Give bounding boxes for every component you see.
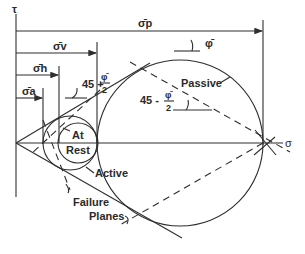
failure-label-line1: Failure: [73, 196, 109, 208]
passive-angle: 45 - φ̄ 2: [140, 90, 212, 113]
passive-angle-two: 2: [166, 103, 171, 113]
sigma-v-label: σ̄v: [53, 40, 68, 52]
sigma-p-label: σ̄p: [138, 17, 153, 29]
passive-label: Passive: [181, 77, 230, 89]
failure-label-line2: Planes: [89, 210, 124, 222]
tau-axis: τ: [12, 3, 17, 197]
sigma-h-dimension: σ̄h: [16, 62, 59, 143]
sigma-a-label: σ̄a: [22, 85, 37, 97]
active-angle: 45 + φ̄ 2: [65, 72, 110, 98]
active-label-text: Active: [95, 167, 128, 179]
at-rest-line1: At: [72, 129, 84, 141]
phi-angle: φ̄: [174, 37, 215, 51]
phi-label: φ̄: [205, 37, 215, 49]
tau-axis-label: τ: [12, 3, 17, 15]
at-rest-line2: Rest: [66, 144, 90, 156]
passive-angle-prefix: 45 -: [140, 94, 159, 106]
active-angle-two: 2: [102, 85, 107, 95]
passive-angle-phi: φ̄: [165, 90, 173, 100]
active-label: Active: [86, 167, 128, 179]
sigma-p-dimension: σ̄p: [16, 17, 263, 145]
active-angle-phi: φ̄: [101, 72, 109, 82]
at-rest-label: At Rest: [63, 128, 90, 156]
mohr-circle-diagram: τ σ σ̄p σ̄v σ̄h σ̄a: [0, 0, 305, 254]
sigma-axis-label: σ: [285, 137, 292, 149]
sigma-axis: σ: [16, 137, 292, 149]
passive-label-text: Passive: [181, 77, 222, 89]
sigma-h-label: σ̄h: [33, 62, 48, 74]
